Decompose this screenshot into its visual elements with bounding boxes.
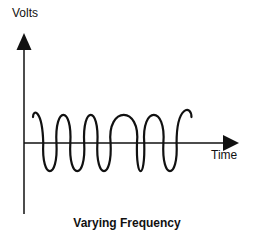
chart-title: Varying Frequency — [0, 216, 254, 230]
y-axis-label: Volts — [12, 6, 38, 20]
y-axis-arrow-icon — [17, 33, 32, 50]
signal-waveform — [33, 110, 191, 171]
x-axis-label: Time — [211, 148, 237, 162]
diagram — [0, 0, 254, 237]
